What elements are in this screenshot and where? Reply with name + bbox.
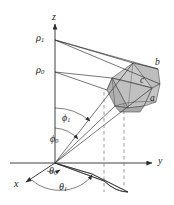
z-axis-label: z	[52, 12, 56, 22]
phi1-arc	[55, 108, 90, 121]
theta0-label: θ0	[49, 166, 57, 177]
rho0-label: ρ0	[36, 65, 44, 76]
sector-edge-upper	[55, 163, 92, 174]
solid-face-a-label: a	[150, 94, 155, 104]
solid-face-b-label: b	[155, 58, 160, 68]
phi0-arc	[55, 128, 78, 139]
y-axis-label: y	[158, 156, 162, 166]
solid-face-c-label: c	[140, 76, 144, 86]
spherical-coordinates-figure: z y x ρ1 ρ0 ϕ1 ϕ0 θ0 θ1 a b c	[0, 0, 174, 205]
theta1-label: θ1	[59, 182, 67, 193]
origin-ray-phi0	[55, 88, 152, 163]
phi1-label: ϕ1	[62, 113, 70, 124]
phi0-label: ϕ0	[50, 134, 58, 145]
sector-edge-outer	[92, 174, 128, 192]
volume-element-solid	[107, 63, 160, 112]
rho1-label: ρ1	[36, 33, 44, 44]
rho0-rays	[55, 72, 112, 90]
rho1-ray-lower	[55, 40, 133, 63]
figure-canvas	[0, 0, 174, 205]
sector-edge-lower	[55, 163, 104, 181]
x-axis-label: x	[14, 179, 18, 189]
